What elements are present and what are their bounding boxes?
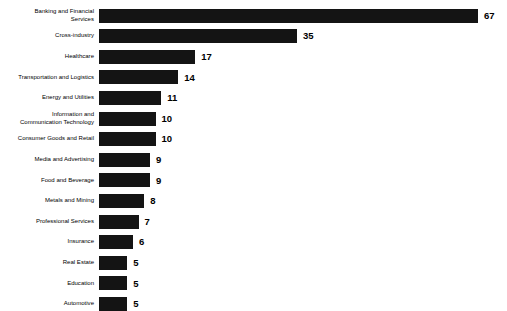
bar <box>99 235 133 249</box>
bar-track: 10 <box>99 129 507 150</box>
bar-track: 5 <box>99 273 507 294</box>
bar-track: 9 <box>99 170 507 191</box>
bar-row: Food and Beverage9 <box>0 170 507 191</box>
bar <box>99 194 144 208</box>
bar-value-label: 7 <box>145 217 150 227</box>
category-label: Metals and Mining <box>0 197 99 204</box>
bar-value-label: 17 <box>201 52 212 62</box>
bar-chart: Banking and Financial Services67Cross-in… <box>0 0 507 311</box>
category-label: Healthcare <box>0 53 99 60</box>
category-label: Professional Services <box>0 218 99 225</box>
bar-track: 5 <box>99 293 507 311</box>
bar-value-label: 5 <box>133 279 138 289</box>
bar-row: Automotive5 <box>0 293 507 311</box>
bar <box>99 50 195 64</box>
bar-value-label: 9 <box>156 155 161 165</box>
bar-row: Banking and Financial Services67 <box>0 5 507 26</box>
bar-row: Professional Services7 <box>0 211 507 232</box>
bar-value-label: 10 <box>162 114 173 124</box>
bar-row: Information and Communication Technology… <box>0 108 507 129</box>
bar <box>99 256 127 270</box>
bar-row: Media and Advertising9 <box>0 149 507 170</box>
bar-value-label: 9 <box>156 176 161 186</box>
category-label: Automotive <box>0 300 99 307</box>
bar-value-label: 10 <box>162 134 173 144</box>
bar <box>99 70 178 84</box>
bar-row: Real Estate5 <box>0 252 507 273</box>
bar-value-label: 67 <box>484 11 495 21</box>
bar <box>99 29 297 43</box>
bar-track: 9 <box>99 149 507 170</box>
category-label: Information and Communication Technology <box>0 111 99 125</box>
bar <box>99 297 127 311</box>
bar <box>99 9 478 23</box>
bar-row: Energy and Utilities11 <box>0 87 507 108</box>
bar-row: Metals and Mining8 <box>0 190 507 211</box>
bar-track: 67 <box>99 5 507 26</box>
bar-track: 8 <box>99 190 507 211</box>
bar-track: 17 <box>99 46 507 67</box>
bar-value-label: 14 <box>184 73 195 83</box>
category-label: Education <box>0 280 99 287</box>
category-label: Insurance <box>0 238 99 245</box>
bar-track: 6 <box>99 232 507 253</box>
bar-row: Insurance6 <box>0 232 507 253</box>
bar-value-label: 6 <box>139 237 144 247</box>
bar <box>99 112 156 126</box>
bar <box>99 91 161 105</box>
category-label: Cross-industry <box>0 32 99 39</box>
category-label: Transportation and Logistics <box>0 74 99 81</box>
bar-value-label: 5 <box>133 258 138 268</box>
bar-track: 5 <box>99 252 507 273</box>
bar-row: Transportation and Logistics14 <box>0 67 507 88</box>
bar-track: 14 <box>99 67 507 88</box>
bar-row: Education5 <box>0 273 507 294</box>
bar <box>99 173 150 187</box>
bar-track: 11 <box>99 87 507 108</box>
category-label: Real Estate <box>0 259 99 266</box>
category-label: Energy and Utilities <box>0 94 99 101</box>
bar <box>99 132 156 146</box>
category-label: Media and Advertising <box>0 156 99 163</box>
bar-value-label: 35 <box>303 31 314 41</box>
bar-row: Consumer Goods and Retail10 <box>0 129 507 150</box>
bar-value-label: 11 <box>167 93 177 103</box>
bar-track: 35 <box>99 26 507 47</box>
category-label: Food and Beverage <box>0 177 99 184</box>
bar-track: 10 <box>99 108 507 129</box>
bar-track: 7 <box>99 211 507 232</box>
bar-value-label: 5 <box>133 299 138 309</box>
bar <box>99 276 127 290</box>
bar-row: Healthcare17 <box>0 46 507 67</box>
category-label: Banking and Financial Services <box>0 8 99 22</box>
bar-value-label: 8 <box>150 196 155 206</box>
bar <box>99 215 139 229</box>
bar-row: Cross-industry35 <box>0 26 507 47</box>
category-label: Consumer Goods and Retail <box>0 135 99 142</box>
bar <box>99 153 150 167</box>
